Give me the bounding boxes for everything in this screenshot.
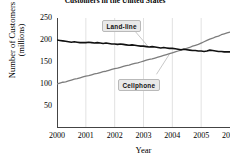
x-tick-2004: 2004 [157,131,187,140]
callout-leader-lines [131,26,170,74]
x-tick-2001: 2001 [71,131,101,140]
callout-land-line: Land-line [102,20,141,32]
x-tick-2006: 2006 [215,131,230,140]
x-tick-2000: 2000 [42,131,72,140]
x-tick-2005: 2005 [186,131,216,140]
x-axis-label: Year [57,145,230,155]
x-tick-2003: 2003 [129,131,159,140]
y-tick-150: 150 [28,57,52,66]
plot-area [57,18,230,128]
y-tick-200: 200 [28,35,52,44]
y-tick-50: 50 [28,101,52,110]
x-tick-2002: 2002 [100,131,130,140]
chart-svg [57,18,230,128]
y-tick-250: 250 [28,13,52,22]
callout-cellphone: Cellphone [118,79,160,91]
y-tick-100: 100 [28,79,52,88]
chart-page: Customers in the United States Number of… [0,0,230,161]
gridlines [86,18,201,128]
